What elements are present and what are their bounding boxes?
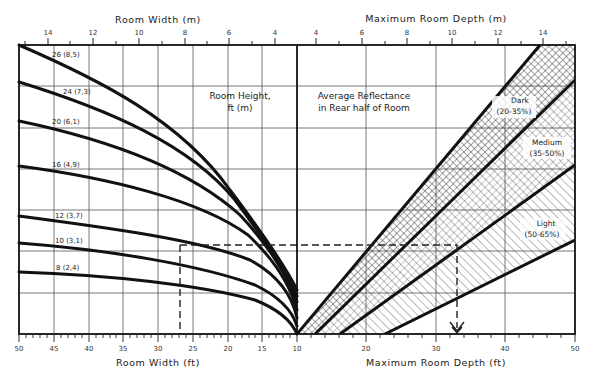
bottom-ticks [19,334,575,342]
curve-label-12: 12 (3,7) [55,212,83,220]
svg-text:14: 14 [539,29,548,37]
svg-text:4: 4 [273,29,278,37]
top-right-axis-title: Maximum Room Depth (m) [365,13,507,24]
top-left-tick-labels: 14 12 10 8 6 4 [44,29,278,37]
reflectance-annotation-line2: in Rear half of Room [318,103,409,113]
curve-label-20: 20 (6,1) [52,118,80,126]
bottom-right-axis-title: Maximum Room Depth (ft) [366,357,506,368]
svg-text:10: 10 [293,345,302,353]
svg-text:15: 15 [258,345,267,353]
bottom-right-tick-labels: 20 30 40 50 [362,345,580,353]
curve-label-24: 24 (7,3) [63,88,91,96]
curve-label-8: 8 (2,4) [56,264,80,272]
reflectance-annotation-line1: Average Reflectance [318,91,411,101]
svg-text:30: 30 [154,345,163,353]
band-label-dark-range: (20-35%) [497,107,532,116]
svg-text:4: 4 [314,29,319,37]
svg-text:40: 40 [501,345,510,353]
band-label-light: Light [537,219,556,228]
top-right-tick-labels: 4 6 8 10 12 14 [314,29,548,37]
svg-text:20: 20 [362,345,371,353]
svg-text:8: 8 [405,29,409,37]
room-height-annotation-line1: Room Height, [209,91,270,101]
curve-label-16: 16 (4,9) [52,161,80,169]
bottom-left-axis-title: Room Width (ft) [116,357,200,368]
svg-text:6: 6 [227,29,232,37]
svg-text:40: 40 [85,345,94,353]
svg-text:6: 6 [360,29,365,37]
svg-text:25: 25 [189,345,198,353]
daylight-room-depth-chart: 26 (8,5) 24 (7,3) 20 (6,1) 16 (4,9) 12 (… [0,0,597,378]
svg-text:10: 10 [135,29,144,37]
svg-text:12: 12 [494,29,503,37]
svg-text:12: 12 [89,29,98,37]
curve-label-26: 26 (8,5) [52,51,80,59]
svg-text:45: 45 [50,345,59,353]
curve-label-10: 10 (3,1) [55,237,83,245]
svg-text:30: 30 [432,345,441,353]
top-ticks [25,38,566,45]
band-label-medium: Medium [532,138,562,147]
svg-text:50: 50 [571,345,580,353]
svg-text:20: 20 [224,345,233,353]
top-left-axis-title: Room Width (m) [115,14,201,25]
band-label-light-range: (50-65%) [525,230,560,239]
band-label-medium-range: (35-50%) [530,149,565,158]
svg-text:8: 8 [183,29,187,37]
bottom-left-tick-labels: 50 45 40 35 30 25 20 15 10 [15,345,302,353]
svg-text:35: 35 [119,345,128,353]
svg-text:10: 10 [448,29,457,37]
band-label-dark: Dark [511,96,529,105]
svg-text:14: 14 [44,29,53,37]
svg-text:50: 50 [15,345,24,353]
room-height-annotation-line2: ft (m) [227,103,252,113]
